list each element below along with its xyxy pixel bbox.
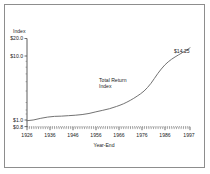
endpoint-value-label: $14.25 <box>174 48 190 54</box>
x-tick-label-1936: 1936 <box>44 132 55 138</box>
y-tick-label-0-8: $0.8 <box>13 124 23 130</box>
x-tick-label-1976: 1976 <box>136 132 147 138</box>
x-axis-title: Year-End <box>93 142 114 148</box>
x-tick-label-1997: 1997 <box>183 132 194 138</box>
chart-plot-area: Index $20.0 $10.0 $1.0 $0.8 1926 1936 19… <box>0 0 210 174</box>
x-tick-label-1986: 1986 <box>159 132 170 138</box>
x-tick-label-1946: 1946 <box>67 132 78 138</box>
y-axis-title: Index <box>13 28 26 34</box>
series-annotation-line2: Index <box>99 83 112 89</box>
x-tick-label-1956: 1956 <box>90 132 101 138</box>
y-tick-label-20: $20.0 <box>10 35 23 41</box>
chart-figure: Index $20.0 $10.0 $1.0 $0.8 1926 1936 19… <box>0 0 210 174</box>
x-axis-major-ticks <box>27 127 190 130</box>
y-tick-label-10: $10.0 <box>10 53 23 59</box>
y-tick-label-1: $1.0 <box>13 117 23 123</box>
x-tick-label-1966: 1966 <box>113 132 124 138</box>
x-tick-label-1926: 1926 <box>21 132 32 138</box>
series-annotation-line1: Total Return <box>99 77 127 83</box>
